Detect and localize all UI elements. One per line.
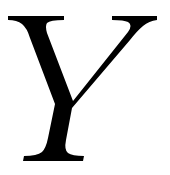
italic-y-icon bbox=[0, 0, 170, 175]
letter-y-glyph: Y bbox=[0, 0, 170, 175]
y-shape bbox=[8, 16, 157, 161]
